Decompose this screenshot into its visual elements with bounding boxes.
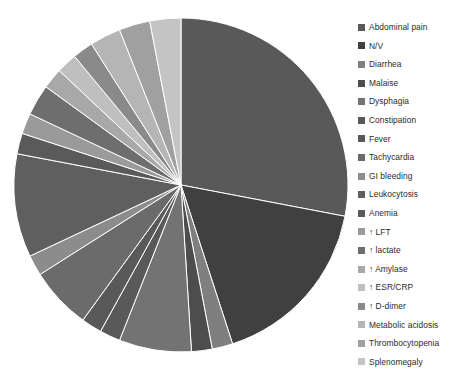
legend-item[interactable]: Diarrhea — [358, 55, 465, 74]
legend-swatch-icon — [358, 117, 365, 124]
legend-swatch-icon — [358, 303, 365, 310]
legend-item-label: Anemia — [369, 209, 398, 217]
legend-item-label: N/V — [369, 42, 383, 50]
legend-item-label: Dysphagia — [369, 97, 409, 105]
legend-item[interactable]: Constipation — [358, 111, 465, 130]
legend-item[interactable]: Dysphagia — [358, 92, 465, 111]
legend-item-label: Malaise — [369, 79, 398, 87]
legend-swatch-icon — [358, 210, 365, 217]
legend-item[interactable]: ↑ lactate — [358, 241, 465, 260]
legend-item[interactable]: Thrombocytopenia — [358, 334, 465, 353]
legend-item-label: ↑ Amylase — [369, 265, 408, 273]
legend-swatch-icon — [358, 42, 365, 49]
legend-item-label: ↑ ESR/CRP — [369, 283, 413, 291]
legend-item[interactable]: ↑ LFT — [358, 223, 465, 242]
legend-item[interactable]: ↑ D-dimer — [358, 297, 465, 316]
legend-swatch-icon — [358, 173, 365, 180]
legend-swatch-icon — [358, 61, 365, 68]
legend-swatch-icon — [358, 191, 365, 198]
legend-swatch-icon — [358, 266, 365, 273]
legend-item[interactable]: Malaise — [358, 74, 465, 93]
legend-item[interactable]: Splenomegaly — [358, 353, 465, 369]
pie-chart-figure: Abdominal painN/VDiarrheaMalaiseDysphagi… — [0, 0, 465, 369]
legend-item-label: ↑ lactate — [369, 246, 401, 254]
legend-item-label: Constipation — [369, 116, 416, 124]
legend-item[interactable]: N/V — [358, 37, 465, 56]
legend-swatch-icon — [358, 98, 365, 105]
legend-item-label: Tachycardia — [369, 153, 414, 161]
legend-item-label: Splenomegaly — [369, 358, 423, 366]
legend-swatch-icon — [358, 154, 365, 161]
legend-item-label: Leukocytosis — [369, 190, 418, 198]
legend-item-label: ↑ LFT — [369, 228, 391, 236]
chart-legend: Abdominal painN/VDiarrheaMalaiseDysphagi… — [358, 18, 465, 369]
legend-item[interactable]: ↑ ESR/CRP — [358, 278, 465, 297]
legend-item-label: Thrombocytopenia — [369, 339, 439, 347]
legend-swatch-icon — [358, 340, 365, 347]
legend-item-label: GI bleeding — [369, 172, 412, 180]
legend-swatch-icon — [358, 24, 365, 31]
legend-item[interactable]: Fever — [358, 130, 465, 149]
legend-swatch-icon — [358, 358, 365, 365]
legend-swatch-icon — [358, 228, 365, 235]
legend-swatch-icon — [358, 247, 365, 254]
legend-item[interactable]: Metabolic acidosis — [358, 316, 465, 335]
legend-swatch-icon — [358, 135, 365, 142]
legend-item-label: Metabolic acidosis — [369, 321, 438, 329]
legend-item-label: ↑ D-dimer — [369, 302, 406, 310]
legend-item-label: Abdominal pain — [369, 23, 427, 31]
legend-item[interactable]: Tachycardia — [358, 148, 465, 167]
legend-item[interactable]: GI bleeding — [358, 167, 465, 186]
legend-swatch-icon — [358, 80, 365, 87]
legend-swatch-icon — [358, 321, 365, 328]
legend-swatch-icon — [358, 284, 365, 291]
legend-item-label: Diarrhea — [369, 60, 402, 68]
legend-item[interactable]: Anemia — [358, 204, 465, 223]
pie-slices-group — [14, 18, 348, 352]
pie-slice — [181, 18, 348, 216]
legend-item[interactable]: ↑ Amylase — [358, 260, 465, 279]
legend-item[interactable]: Abdominal pain — [358, 18, 465, 37]
legend-item[interactable]: Leukocytosis — [358, 185, 465, 204]
legend-item-label: Fever — [369, 135, 391, 143]
